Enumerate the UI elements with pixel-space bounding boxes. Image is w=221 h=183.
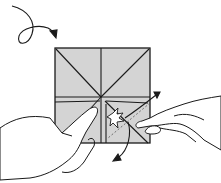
origami-diagram: origami-instruction-step [0, 0, 221, 183]
origami-illustration [0, 0, 221, 183]
turn-over-arrow-icon [12, 6, 57, 43]
